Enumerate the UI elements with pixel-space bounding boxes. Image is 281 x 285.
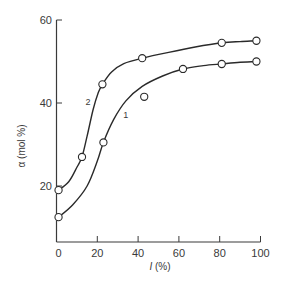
x-axis-label: I (%) bbox=[149, 261, 170, 272]
axes bbox=[57, 20, 261, 242]
data-point-series-1 bbox=[218, 60, 225, 67]
x-tick-label: 60 bbox=[173, 247, 185, 259]
data-point-series-2 bbox=[253, 37, 260, 44]
x-tick-label: 0 bbox=[55, 247, 61, 259]
y-tick-label: 40 bbox=[40, 97, 52, 109]
x-ticks: 020406080100 bbox=[55, 236, 269, 259]
data-point-series-1 bbox=[100, 139, 107, 146]
series-label-1: 1 bbox=[123, 110, 128, 120]
x-tick-label: 80 bbox=[214, 247, 226, 259]
data-point-series-2 bbox=[139, 55, 146, 62]
y-axis-label: α (mol %) bbox=[16, 124, 27, 167]
data-point-series-2 bbox=[78, 153, 85, 160]
curve-series-1 bbox=[59, 62, 257, 218]
series-label-2: 2 bbox=[86, 97, 91, 107]
y-tick-label: 20 bbox=[40, 180, 52, 192]
x-tick-label: 40 bbox=[132, 247, 144, 259]
data-point-series-1 bbox=[141, 93, 148, 100]
curves bbox=[59, 41, 257, 217]
y-tick-label: 60 bbox=[40, 14, 52, 26]
data-point-series-1 bbox=[253, 58, 260, 65]
x-tick-label: 20 bbox=[91, 247, 103, 259]
data-point-series-2 bbox=[218, 39, 225, 46]
x-tick-label: 100 bbox=[251, 247, 269, 259]
data-markers bbox=[55, 37, 260, 221]
y-ticks: 204060 bbox=[40, 14, 62, 192]
data-point-series-2 bbox=[99, 81, 106, 88]
data-point-series-1 bbox=[55, 214, 62, 221]
data-point-series-1 bbox=[179, 65, 186, 72]
data-point-series-2 bbox=[55, 187, 62, 194]
chart: 020406080100 204060 12 I (%) α (mol %) bbox=[0, 0, 281, 285]
